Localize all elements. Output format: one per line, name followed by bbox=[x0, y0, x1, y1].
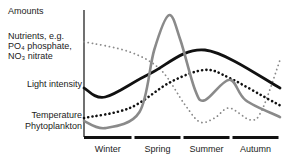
season-tick-labels: WinterSpringSummerAutumn bbox=[95, 144, 271, 154]
series-label-nutrients: NO₃ nitrate bbox=[8, 51, 53, 61]
season-label-autumn: Autumn bbox=[240, 144, 271, 154]
season-label-summer: Summer bbox=[189, 144, 223, 154]
curves bbox=[84, 15, 280, 128]
seasonal-cycle-chart: Amounts Nutrients, e.g.PO₄ phosphate,NO₃… bbox=[0, 0, 292, 161]
y-axis-label: Amounts bbox=[8, 6, 44, 16]
series-label-nutrients: PO₄ phosphate, bbox=[8, 41, 72, 51]
series-label-nutrients: Nutrients, e.g. bbox=[8, 31, 64, 41]
series-label-light: Light intensity bbox=[27, 79, 83, 89]
season-label-spring: Spring bbox=[144, 144, 170, 154]
series-label-phytoplankton: Phytoplankton bbox=[25, 121, 82, 131]
series-labels: Nutrients, e.g.PO₄ phosphate,NO₃ nitrate… bbox=[8, 31, 82, 131]
series-label-temperature: Temperature bbox=[31, 110, 82, 120]
season-label-winter: Winter bbox=[95, 144, 121, 154]
series-line-light bbox=[84, 50, 280, 98]
